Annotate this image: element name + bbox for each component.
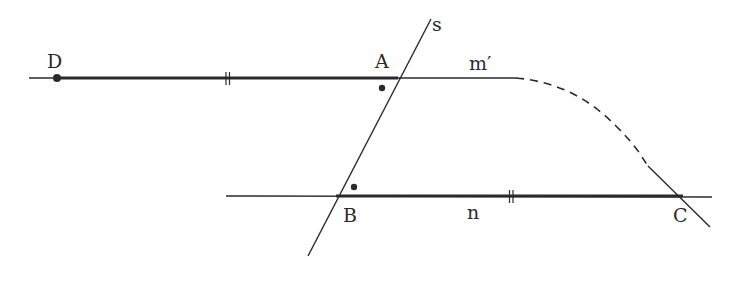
label-A: A — [374, 50, 389, 72]
point-D — [53, 74, 61, 82]
label-D: D — [47, 50, 62, 72]
label-C: C — [673, 204, 688, 226]
dashed-curve — [516, 78, 648, 166]
angle-marker-A — [379, 85, 385, 91]
label-line-s: s — [432, 13, 442, 35]
angle-marker-B — [351, 184, 357, 190]
label-line-n: n — [467, 201, 479, 223]
geometry-diagram: D A B C s m′ n — [0, 0, 738, 281]
label-B: B — [343, 204, 357, 226]
line-s — [308, 19, 431, 256]
label-line-m-prime: m′ — [469, 52, 491, 74]
